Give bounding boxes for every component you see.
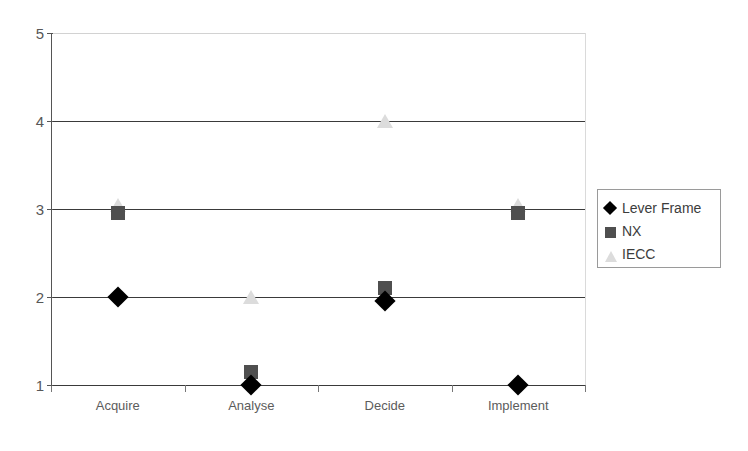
y-tick-label-1: 1 [10,378,44,393]
x-tick-label-analyse: Analyse [228,398,274,413]
data-point-iecc-decide [377,114,393,128]
y-tick-mark-3 [47,209,53,210]
diamond-icon [603,200,619,216]
data-point-lever-frame-acquire [107,286,128,307]
y-tick-label-4: 4 [10,114,44,129]
x-tick-label-decide: Decide [365,398,405,413]
data-point-nx-implement [511,206,525,220]
legend-item-nx[interactable]: NX [603,219,715,242]
triangle-icon [603,246,619,262]
legend-item-iecc[interactable]: IECC [603,242,715,265]
legend-label: IECC [622,247,655,261]
y-tick-label-5: 5 [10,26,44,41]
legend-label: Lever Frame [622,201,701,215]
y-tick-mark-2 [47,297,53,298]
x-tick-mark-4 [585,385,586,392]
y-tick-label-3: 3 [10,202,44,217]
x-tick-label-acquire: Acquire [96,398,140,413]
data-point-nx-acquire [111,206,125,220]
plot-right-edge [585,33,586,386]
plot-area [51,33,585,385]
legend-label: NX [622,224,641,238]
y-axis-tick-labels: 12345 [0,0,44,451]
data-point-iecc-analyse [243,290,259,304]
square-icon [603,223,619,239]
gridline-3 [51,209,585,210]
y-tick-mark-4 [47,121,53,122]
x-tick-mark-0 [51,385,52,392]
y-tick-label-2: 2 [10,290,44,305]
y-tick-mark-5 [47,33,53,34]
chart-container: 12345 AcquireAnalyseDecideImplement Leve… [0,0,748,451]
gridline-4 [51,121,585,122]
legend-item-lever-frame[interactable]: Lever Frame [603,196,715,219]
x-tick-label-implement: Implement [488,398,549,413]
x-tick-mark-3 [452,385,453,392]
gridline-2 [51,297,585,298]
x-tick-mark-2 [318,385,319,392]
y-tick-mark-1 [47,385,53,386]
x-tick-mark-1 [185,385,186,392]
data-point-lever-frame-implement [508,374,529,395]
chart-legend: Lever FrameNXIECC [597,189,721,268]
gridline-5 [51,33,585,34]
